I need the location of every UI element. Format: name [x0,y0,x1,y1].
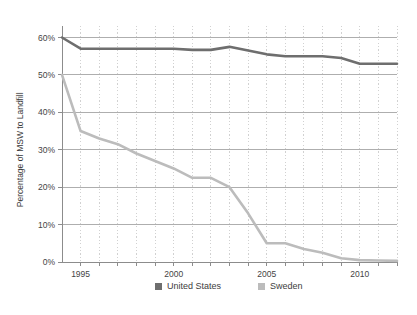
y-axis-title: Percentage of MSW to Landfill [15,92,25,207]
y-tick-label: 0% [43,257,56,267]
y-axis-tick-labels: 0%10%20%30%40%50%60% [38,33,55,268]
x-tick-label: 2010 [350,269,369,279]
line-chart: 0%10%20%30%40%50%60% 1995200020052010 Pe… [0,0,417,315]
y-tick-label: 60% [38,33,55,43]
x-tick-label: 2005 [257,269,276,279]
x-axis-tick-labels: 1995200020052010 [71,269,369,279]
legend-swatch [258,283,265,290]
chart-legend: United StatesSweden [155,281,303,291]
legend-item[interactable]: Sweden [258,281,303,291]
y-tick-label: 30% [38,145,55,155]
chart-container: 0%10%20%30%40%50%60% 1995200020052010 Pe… [0,0,417,315]
legend-label: Sweden [270,281,303,291]
y-tick-label: 10% [38,220,55,230]
legend-item[interactable]: United States [155,281,222,291]
y-tick-label: 50% [38,70,55,80]
axis-ticks [58,38,397,267]
data-series [62,38,397,261]
x-tick-label: 2000 [164,269,183,279]
y-tick-label: 20% [38,182,55,192]
x-tick-label: 1995 [71,269,90,279]
legend-swatch [155,283,162,290]
legend-label: United States [167,281,222,291]
y-tick-label: 40% [38,107,55,117]
